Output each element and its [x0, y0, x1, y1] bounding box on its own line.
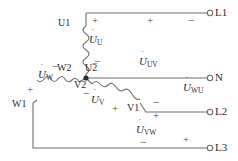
circuit-schematic	[0, 0, 238, 161]
terminal-label-l2: L2	[215, 106, 227, 117]
polarity-minus-v-top: −	[83, 87, 90, 99]
polarity-minus-uv-top: −	[188, 14, 195, 26]
phasor-uv-line: ˙UUV	[139, 56, 158, 67]
polarity-minus-w2: −	[52, 60, 59, 72]
terminal-label-l1: L1	[215, 7, 227, 18]
polarity-minus-u-bottom: −	[94, 55, 101, 67]
terminal-label-n: N	[215, 72, 223, 83]
terminal-l3-marker[interactable]	[207, 145, 212, 150]
winding-label-u1: U1	[58, 18, 70, 28]
polarity-minus-l3: −	[140, 136, 147, 148]
phasor-v-subscript: V	[99, 98, 104, 107]
w-winding-lead-left	[33, 100, 37, 103]
phasor-uv-subscript: UV	[147, 60, 158, 69]
phasor-u-subscript: U	[97, 38, 102, 47]
terminal-l2-marker[interactable]	[207, 109, 212, 114]
polarity-plus-l3: +	[183, 134, 189, 145]
phasor-wu-subscript: WU	[191, 86, 204, 95]
polarity-plus-u-top: +	[92, 15, 98, 26]
winding-label-w2: W2	[57, 63, 71, 73]
l3-line	[33, 103, 207, 148]
polarity-plus-l2: +	[153, 110, 159, 121]
polarity-plus-v-right: +	[112, 103, 118, 114]
polarity-plus-uv-top: +	[147, 15, 153, 26]
phasor-wu-line: ˙UWU	[183, 82, 203, 93]
terminal-label-l3: L3	[215, 142, 227, 153]
l2-line	[140, 103, 207, 112]
phasor-w-phase: ˙UW	[38, 69, 53, 80]
three-phase-star-winding-diagram: L1 N L2 L3 U1 U2 W2 V2 W1 V1 − ˙UU ˙UW ˙…	[0, 0, 238, 161]
terminal-n-marker[interactable]	[207, 75, 212, 80]
phasor-v-phase: ˙UV	[91, 94, 104, 105]
phasor-u-phase: ˙UU	[89, 34, 102, 45]
winding-label-v1: V1	[127, 103, 139, 113]
polarity-plus-w-left: +	[27, 84, 33, 95]
phasor-w-subscript: W	[46, 73, 53, 82]
terminal-l1-marker[interactable]	[207, 10, 212, 15]
phasor-vw-line: ˙UVW	[136, 124, 156, 135]
polarity-minus-l2: −	[153, 96, 160, 108]
winding-label-w1: W1	[12, 99, 26, 109]
